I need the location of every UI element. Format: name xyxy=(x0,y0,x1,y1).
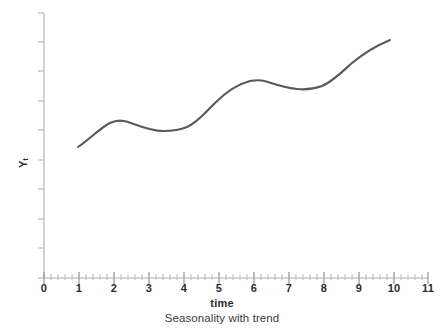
x-tick-label-0: 0 xyxy=(32,282,56,295)
x-tick-label-10: 10 xyxy=(382,282,406,295)
x-tick-label-6: 6 xyxy=(242,282,266,295)
x-tick-label-2: 2 xyxy=(102,282,126,295)
y-axis-ticks xyxy=(38,13,44,278)
x-tick-label-4: 4 xyxy=(172,282,196,295)
x-tick-label-1: 1 xyxy=(67,282,91,295)
x-tick-label-3: 3 xyxy=(137,282,161,295)
data-series-line xyxy=(78,40,390,147)
y-axis-title-subscript: t xyxy=(21,158,30,161)
x-tick-label-5: 5 xyxy=(207,282,231,295)
figure-caption: Seasonality with trend xyxy=(0,312,444,324)
y-axis-title: Yt xyxy=(8,148,38,178)
x-tick-label-7: 7 xyxy=(277,282,301,295)
x-tick-label-8: 8 xyxy=(312,282,336,295)
chart-figure: 0 1 2 3 4 5 6 7 8 9 10 11 time Seasonali… xyxy=(0,0,444,333)
x-axis-minor-ticks xyxy=(51,274,422,280)
x-axis-title: time xyxy=(0,297,444,309)
x-tick-label-9: 9 xyxy=(347,282,371,295)
y-axis-title-base: Y xyxy=(17,161,29,168)
x-tick-label-11: 11 xyxy=(416,282,440,295)
